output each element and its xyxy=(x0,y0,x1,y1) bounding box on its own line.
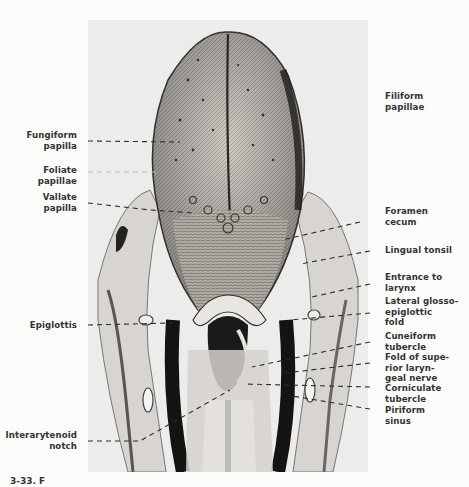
label-line: Fungiform xyxy=(5,130,77,141)
label-line: notch xyxy=(0,441,77,452)
label-line: papillae xyxy=(5,176,77,187)
label-line: papillae xyxy=(385,102,424,113)
label-foramen-cecum: Foramen cecum xyxy=(385,206,428,227)
label-fungiform-papilla: Fungiform papilla xyxy=(5,130,77,151)
label-line: tubercle xyxy=(385,394,442,405)
label-line: tubercle xyxy=(385,342,436,353)
label-line: Vallate xyxy=(5,192,77,203)
label-line: rior laryn- xyxy=(385,363,449,374)
label-line: Fold of supe- xyxy=(385,352,449,363)
label-line: Piriform xyxy=(385,405,425,416)
label-line: papilla xyxy=(5,141,77,152)
label-line: geal nerve xyxy=(385,373,449,384)
label-line: sinus xyxy=(385,416,425,427)
label-vallate-papilla: Vallate papilla xyxy=(5,192,77,213)
label-line: Filiform xyxy=(385,91,424,102)
label-line: Epiglottis xyxy=(5,320,77,331)
label-line: Lingual tonsil xyxy=(385,245,452,256)
label-piriform-sinus: Piriform sinus xyxy=(385,405,425,426)
label-line: epiglottic xyxy=(385,307,458,318)
label-line: Lateral glosso- xyxy=(385,296,458,307)
label-corniculate-tubercle: Corniculate tubercle xyxy=(385,383,442,404)
label-line: Interarytenoid xyxy=(0,430,77,441)
label-filiform-papillae: Filiform papillae xyxy=(385,91,424,112)
label-line: papilla xyxy=(5,203,77,214)
label-entrance-to-larynx: Entrance to larynx xyxy=(385,272,442,293)
anatomy-photograph xyxy=(88,20,368,472)
label-epiglottis: Epiglottis xyxy=(5,320,77,331)
label-lateral-glossoepiglottic-fold: Lateral glosso- epiglottic fold xyxy=(385,296,458,328)
label-line: Cuneiform xyxy=(385,331,436,342)
label-line: Foramen xyxy=(385,206,428,217)
figure-caption: 3-33. F xyxy=(10,476,45,486)
label-line: Foliate xyxy=(5,165,77,176)
label-line: cecum xyxy=(385,217,428,228)
tongue-larynx-illustration xyxy=(88,20,368,472)
label-fold-of-superior-laryngeal-nerve: Fold of supe- rior laryn- geal nerve xyxy=(385,352,449,384)
label-line: Entrance to xyxy=(385,272,442,283)
label-lingual-tonsil: Lingual tonsil xyxy=(385,245,452,256)
label-cuneiform-tubercle: Cuneiform tubercle xyxy=(385,331,436,352)
label-line: fold xyxy=(385,317,458,328)
label-line: larynx xyxy=(385,283,442,294)
label-line: Corniculate xyxy=(385,383,442,394)
label-foliate-papillae: Foliate papillae xyxy=(5,165,77,186)
label-interarytenoid-notch: Interarytenoid notch xyxy=(0,430,77,451)
